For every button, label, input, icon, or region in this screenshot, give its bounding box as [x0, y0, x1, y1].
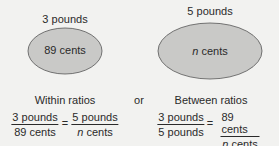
between-equals-sign: =	[207, 117, 213, 129]
between-left-fraction: 3 pounds 5 pounds	[157, 111, 204, 138]
within-ratios-heading: Within ratios	[35, 94, 96, 106]
left-set-value: 89 cents	[44, 44, 86, 56]
right-set-value-variable: n	[192, 45, 198, 57]
within-left-fraction: 3 pounds 89 cents	[11, 111, 58, 138]
right-set-label: 5 pounds	[187, 5, 232, 17]
between-left-numerator: 3 pounds	[157, 111, 204, 125]
or-connector: or	[134, 94, 144, 106]
within-right-fraction: 5 pounds n cents	[71, 111, 118, 138]
within-left-numerator: 3 pounds	[11, 111, 58, 125]
within-right-denominator-unit: cents	[86, 126, 112, 138]
within-left-denominator: 89 cents	[14, 125, 56, 138]
left-set-value-number: 89	[44, 44, 56, 56]
between-right-denominator-variable: n	[222, 138, 228, 146]
within-right-denominator-variable: n	[77, 126, 83, 138]
between-right-denominator: n cents	[222, 137, 257, 146]
left-set-label: 3 pounds	[42, 13, 87, 25]
between-right-fraction: 89 cents n cents	[221, 111, 260, 146]
between-right-denominator-unit: cents	[231, 138, 257, 146]
within-right-denominator: n cents	[77, 125, 112, 138]
left-set-value-unit: cents	[60, 44, 86, 56]
between-left-denominator: 5 pounds	[158, 125, 203, 138]
between-right-numerator: 89 cents	[221, 111, 260, 137]
right-set-value-unit: cents	[201, 45, 227, 57]
between-ratios-heading: Between ratios	[175, 94, 248, 106]
right-set-value: n cents	[192, 45, 227, 57]
within-equals-sign: =	[62, 117, 68, 129]
within-right-numerator: 5 pounds	[71, 111, 118, 125]
